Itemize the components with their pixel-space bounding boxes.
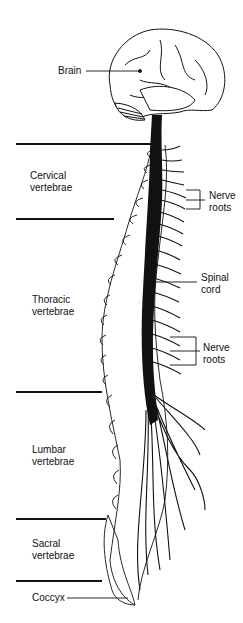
nerve-roots-lower-bracket (170, 337, 200, 365)
label-spinal-cord: Spinal cord (201, 272, 229, 296)
label-lumbar-line2: vertebrae (32, 456, 74, 468)
divider-sacral-coccyx (16, 580, 102, 582)
label-nerve-roots-upper: Nerve roots (209, 190, 236, 214)
label-thoracic-vertebrae: Thoracic vertebrae (32, 294, 74, 318)
label-lumbar-line1: Lumbar (32, 444, 74, 456)
label-cervical-vertebrae: Cervical vertebrae (30, 170, 72, 194)
label-nerve-roots-lower: Nerve roots (203, 342, 230, 366)
label-spinal-cord-line2: cord (201, 284, 229, 296)
label-cervical-line1: Cervical (30, 170, 72, 182)
divider-thoracic-lumbar (16, 391, 102, 393)
nerve-roots-upper-bracket (186, 190, 205, 209)
divider-top-cervical (16, 143, 151, 145)
label-brain: Brain (58, 65, 81, 77)
label-coccyx: Coccyx (32, 592, 65, 604)
label-nerve-roots-lower-line2: roots (203, 354, 230, 366)
label-nerve-roots-lower-line1: Nerve (203, 342, 230, 354)
label-nerve-roots-upper-line2: roots (209, 202, 236, 214)
label-spinal-cord-line1: Spinal (201, 272, 229, 284)
brain-drawing (109, 29, 225, 120)
label-sacral-vertebrae: Sacral vertebrae (32, 538, 74, 562)
label-thoracic-line1: Thoracic (32, 294, 74, 306)
label-cervical-line2: vertebrae (30, 182, 72, 194)
label-thoracic-line2: vertebrae (32, 306, 74, 318)
divider-lumbar-sacral (16, 518, 106, 520)
spinal-cord-drawing (142, 115, 163, 425)
label-nerve-roots-upper-line1: Nerve (209, 190, 236, 202)
label-sacral-line1: Sacral (32, 538, 74, 550)
divider-cervical-thoracic (16, 218, 114, 220)
label-sacral-line2: vertebrae (32, 550, 74, 562)
label-lumbar-vertebrae: Lumbar vertebrae (32, 444, 74, 468)
